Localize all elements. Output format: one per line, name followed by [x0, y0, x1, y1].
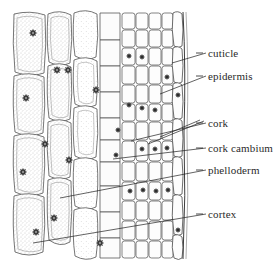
- label-cuticle: cuticle: [208, 48, 238, 59]
- leader-dashes: [196, 53, 203, 214]
- label-phelloderm: phelloderm: [208, 165, 260, 176]
- cork-cell-rows: [122, 13, 173, 258]
- botanical-figure: cuticleepidermiscorkcork cambiumphellode…: [0, 0, 280, 270]
- label-cortex: cortex: [208, 209, 236, 220]
- cuticle-layer: [183, 12, 188, 259]
- label-cork: cork: [208, 118, 228, 129]
- label-cork-cambium: cork cambium: [208, 143, 273, 154]
- cork-cambium-cells: [100, 13, 120, 258]
- label-epidermis: epidermis: [208, 71, 253, 82]
- tissue-drawing: [0, 0, 280, 270]
- epidermis-outer-column: [172, 12, 183, 260]
